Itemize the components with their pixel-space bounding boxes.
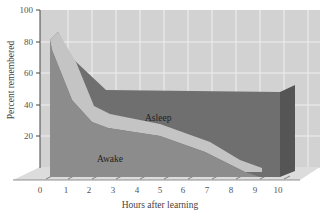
y-axis-title: Percent remembered (6, 41, 16, 120)
y-tick-40: 40 (24, 100, 34, 110)
y-tick-80: 80 (24, 37, 34, 47)
y-tick-60: 60 (24, 68, 34, 78)
x-tick-10: 10 (274, 185, 284, 195)
x-tick-2: 2 (87, 185, 92, 195)
asleep-label: Asleep (145, 113, 172, 123)
x-tick-8: 8 (229, 185, 234, 195)
x-tick-1: 1 (64, 185, 69, 195)
x-tick-9: 9 (253, 185, 258, 195)
x-tick-5: 5 (158, 185, 163, 195)
x-tick-7: 7 (205, 185, 210, 195)
y-tick-20: 20 (24, 131, 34, 141)
x-tick-3: 3 (111, 185, 116, 195)
forgetting-curve-chart: 100 80 60 40 20 Percent remembered Aslee… (0, 0, 320, 213)
y-tick-100: 100 (20, 5, 34, 15)
x-tick-6: 6 (181, 185, 186, 195)
y-ticks (36, 10, 40, 136)
x-tick-0: 0 (38, 185, 43, 195)
asleep-side (280, 85, 295, 177)
awake-label: Awake (97, 154, 123, 164)
x-axis-title: Hours after learning (122, 200, 199, 210)
x-tick-4: 4 (135, 185, 140, 195)
